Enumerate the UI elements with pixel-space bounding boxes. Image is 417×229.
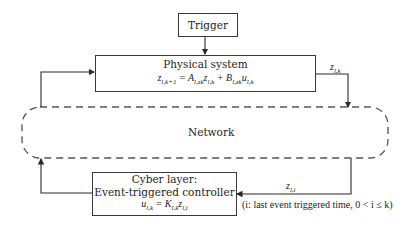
- cyber-layer-title: Cyber layer:: [132, 173, 198, 186]
- plant-output-signal-label: zl,k: [330, 61, 341, 75]
- trigger-box: Trigger: [178, 13, 238, 37]
- cyber-layer-box: Cyber layer: Event-triggered controller …: [92, 172, 237, 216]
- physical-system-box: Physical system zl,k+1 = Al,zkzl,k + Bl,…: [95, 55, 316, 92]
- network-label: Network: [188, 126, 234, 138]
- trigger-label: Trigger: [188, 19, 228, 32]
- control-to-plant-arrow: [41, 72, 94, 107]
- physical-system-title: Physical system: [163, 58, 247, 71]
- controller-equation: ul,k = Kl,kzl,i: [141, 198, 188, 215]
- controller-input-signal-label: zl,i: [286, 180, 296, 194]
- controller-title: Event-triggered controller: [94, 186, 234, 199]
- event-time-note: (i: last event triggered time, 0 < i ≤ k…: [242, 199, 393, 210]
- plant-output-arrow: [316, 74, 348, 107]
- physical-system-equation: zl,k+1 = Al,zkzl,k + Bl,zkul,k: [157, 71, 253, 89]
- controller-to-network-arrow: [41, 159, 92, 193]
